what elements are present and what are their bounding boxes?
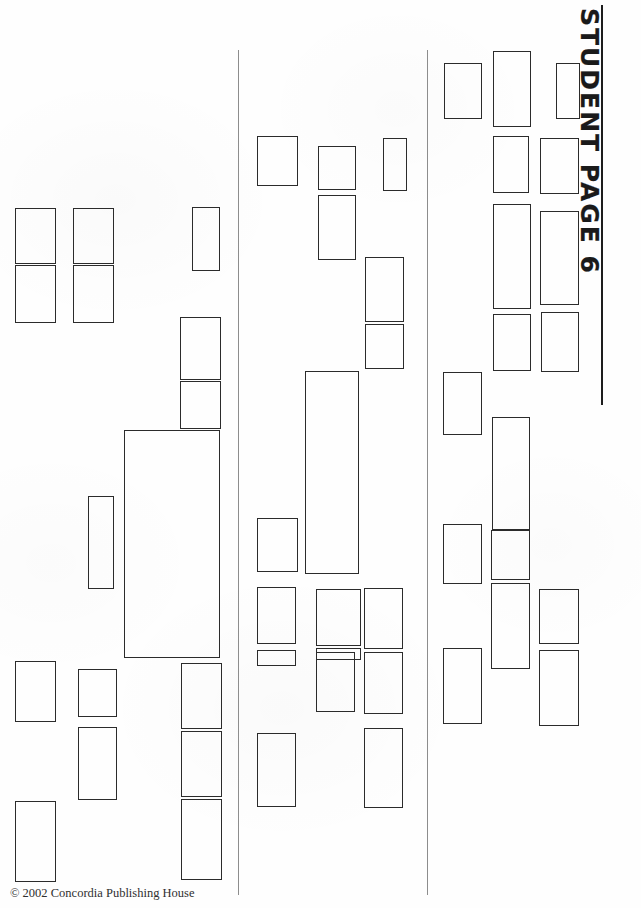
cutout-box[interactable] (318, 195, 356, 260)
cutout-box[interactable] (15, 208, 56, 264)
cutout-box[interactable] (257, 733, 296, 807)
column-divider-right (427, 50, 428, 895)
cutout-box[interactable] (78, 727, 117, 800)
cutout-box[interactable] (556, 63, 580, 119)
cutout-box[interactable] (444, 63, 482, 119)
cutout-box[interactable] (540, 138, 579, 194)
cutout-box[interactable] (73, 265, 114, 323)
cutout-box[interactable] (318, 146, 356, 190)
cutout-box[interactable] (15, 661, 56, 722)
cutout-box[interactable] (192, 207, 220, 271)
cutout-box[interactable] (365, 257, 404, 322)
cutout-box[interactable] (493, 136, 529, 193)
cutout-box[interactable] (364, 728, 403, 808)
cutout-box[interactable] (443, 372, 482, 435)
cutout-box[interactable] (316, 589, 361, 646)
cutout-box[interactable] (15, 265, 56, 323)
cutout-box[interactable] (15, 801, 56, 882)
column-divider-left (238, 50, 239, 895)
cutout-box[interactable] (257, 518, 298, 572)
cutout-box[interactable] (539, 650, 579, 726)
cutout-box[interactable] (181, 799, 222, 880)
cutout-box[interactable] (181, 663, 222, 729)
cutout-box[interactable] (305, 371, 359, 574)
cutout-box[interactable] (491, 583, 530, 669)
cutout-box[interactable] (78, 669, 117, 717)
cutout-box[interactable] (365, 324, 404, 369)
cutout-box[interactable] (383, 138, 407, 191)
cutout-box[interactable] (539, 589, 579, 644)
cutout-box[interactable] (540, 211, 579, 305)
cutout-box[interactable] (88, 496, 114, 589)
cutout-box[interactable] (180, 317, 221, 380)
footer-copyright: © 2002 Concordia Publishing House (10, 886, 195, 901)
cutout-box[interactable] (493, 51, 531, 127)
cutout-box[interactable] (491, 530, 530, 580)
cutout-box[interactable] (493, 204, 531, 309)
cutout-box[interactable] (124, 430, 220, 658)
cutout-box[interactable] (443, 524, 482, 584)
cutout-box[interactable] (364, 652, 403, 714)
cutout-box[interactable] (443, 648, 482, 724)
cutout-box[interactable] (541, 312, 579, 372)
cutout-box[interactable] (73, 208, 114, 264)
cutout-box[interactable] (364, 588, 403, 649)
cutout-box[interactable] (257, 650, 296, 666)
cutout-box[interactable] (181, 731, 222, 797)
cutout-box[interactable] (493, 314, 531, 371)
cutout-box[interactable] (257, 136, 298, 186)
worksheet-page: STUDENT PAGE 6 © 2002 Concordia Publishi… (0, 0, 641, 908)
cutout-box[interactable] (180, 381, 221, 429)
cutout-box[interactable] (492, 417, 530, 530)
cutout-box[interactable] (316, 652, 355, 712)
cutout-box[interactable] (257, 587, 296, 644)
